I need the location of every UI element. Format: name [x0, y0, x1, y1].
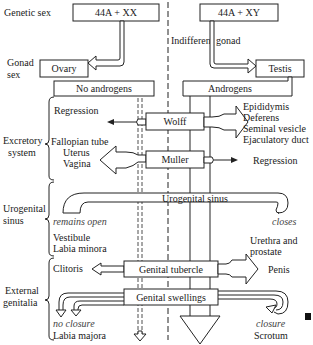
female-swellings-fate-label: Labia majora	[53, 330, 107, 341]
male-tubercle-fate-label: Penis	[268, 264, 290, 275]
wolff-male-development-arrow	[204, 106, 248, 138]
female-gonad-arrow	[88, 21, 124, 70]
swellings-female-arrowhead-inner	[71, 310, 81, 316]
muller-female-development-arrow	[100, 146, 146, 174]
male-sinus-fate-line2: prostate	[250, 246, 282, 257]
wolff-label: Wolff	[164, 116, 188, 127]
genital-swellings-label: Genital swellings	[136, 292, 206, 303]
male-wolff-fate-line4: Ejaculatory duct	[243, 134, 309, 145]
female-wolff-fate-label: Regression	[54, 105, 98, 116]
row-label-gonad-sex-line2: sex	[7, 69, 20, 80]
genital-tubercle-label: Genital tubercle	[139, 264, 204, 275]
male-wolff-fate-line1: Epididymis	[243, 101, 289, 112]
row-label-urogenital-line1: Urogenital	[3, 203, 46, 214]
male-muller-fate-label: Regression	[253, 155, 297, 166]
male-gonad-arrow	[210, 21, 256, 73]
female-muller-fate-line1: Fallopian tube	[51, 136, 109, 147]
swellings-male-arrow	[218, 291, 288, 314]
female-tubercle-fate-label: Clitoris	[53, 263, 83, 274]
female-pathway-arrowhead	[134, 331, 146, 341]
male-sinus-fate-line1: Urethra and	[250, 235, 297, 246]
swellings-female-arrowhead-outer	[56, 310, 66, 317]
ovary-label: Ovary	[52, 63, 77, 74]
male-pathway-arrowhead	[180, 316, 220, 344]
androgens-label: Androgens	[208, 83, 252, 94]
tubercle-male-arrow	[218, 254, 258, 284]
female-karyotype-label: 44A + XX	[95, 7, 138, 18]
wolff-regression-arrowhead	[107, 119, 114, 125]
male-karyotype-label: 44A + XY	[218, 7, 260, 18]
swellings-female-arrow	[59, 293, 124, 310]
tubercle-female-arrow	[92, 263, 124, 275]
row-label-urogenital-line2: sinus	[3, 215, 24, 226]
indifferent-gonad-label: Indifferent gonad	[171, 35, 241, 46]
caption-fragment-marker	[305, 313, 311, 320]
urogenital-sinus-label: Urogenital sinus	[162, 193, 228, 204]
no-androgens-label: No androgens	[76, 83, 132, 94]
remains-open-label: remains open	[53, 216, 107, 227]
male-wolff-fate-line2: Deferens	[243, 112, 279, 123]
row-label-external-line1: External	[5, 285, 39, 296]
row-label-gonad-sex-line1: Gonad	[7, 57, 34, 68]
testis-label: Testis	[268, 63, 291, 74]
closure-label: closure	[256, 318, 286, 329]
sexual-differentiation-diagram: Genetic sex 44A + XX 44A + XY Indifferen…	[0, 0, 313, 345]
muller-regression-arrowhead	[231, 157, 238, 163]
closes-label: closes	[272, 216, 297, 227]
male-wolff-fate-line3: Seminal vesicle	[243, 123, 307, 134]
female-sinus-fate-line1: Vestibule	[53, 232, 91, 243]
row-label-excretory-line2: system	[8, 147, 36, 158]
female-sinus-fate-line2: Labia minora	[53, 243, 107, 254]
female-muller-fate-line3: Vagina	[63, 158, 91, 169]
muller-right-stub	[204, 157, 214, 163]
male-swellings-fate-label: Scrotum	[254, 330, 288, 341]
row-label-excretory-line1: Excretory	[3, 135, 42, 146]
female-muller-fate-line2: Uterus	[63, 147, 90, 158]
no-closure-label: no closure	[53, 318, 95, 329]
muller-label: Muller	[161, 154, 189, 165]
row-label-genetic-sex: Genetic sex	[4, 7, 51, 18]
row-label-external-line2: genitalia	[3, 297, 38, 308]
wolff-left-stub	[137, 119, 147, 125]
